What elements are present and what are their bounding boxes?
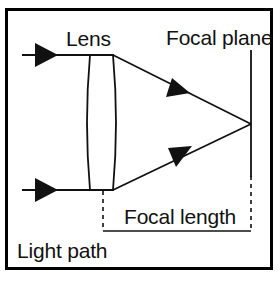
light-path-diagram: Lens Focal plane Focal length Light path <box>0 0 280 285</box>
lens-body <box>87 55 116 190</box>
focal-plane-label: Focal plane <box>166 27 272 48</box>
lens-label: Lens <box>66 28 111 49</box>
focal-length-label: Focal length <box>124 206 236 227</box>
light-path-label: Light path <box>17 240 107 261</box>
